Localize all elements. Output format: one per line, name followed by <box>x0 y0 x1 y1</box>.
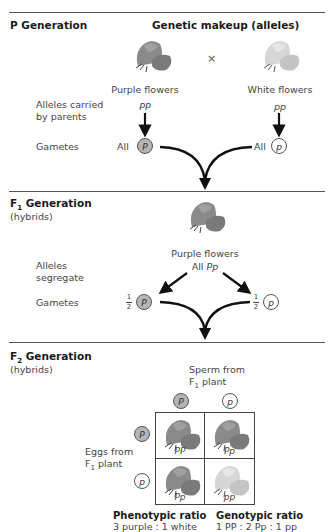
punnett-cell-Pp-bottom: Pp <box>156 459 205 505</box>
punnett-square: PP Pp Pp pp <box>155 412 255 505</box>
egg-allele-recessive: p <box>134 473 150 489</box>
cell-genotype: Pp <box>156 492 204 502</box>
f1-generation-heading: F1 Generation <box>10 197 92 212</box>
f1-phenotype: Purple flowers <box>165 248 245 260</box>
fraction-right: 12 <box>253 294 259 311</box>
punnett-cell-pp: pp <box>205 459 254 505</box>
f1-gamete-dominant: P <box>136 294 152 310</box>
sperm-label: Sperm from F1 plant <box>189 364 245 392</box>
punnett-cell-PP: PP <box>156 413 205 459</box>
eggs-label: Eggs from F1 plant <box>85 446 133 474</box>
cell-genotype: Pp <box>205 446 254 456</box>
divider-f1 <box>9 191 325 192</box>
f2-generation-heading: F2 Generation <box>10 350 92 365</box>
eggs-label-line1: Eggs from <box>85 446 133 458</box>
f2-subheading: (hybrids) <box>10 364 53 376</box>
phenotypic-ratio-title: Phenotypic ratio <box>113 510 206 521</box>
fraction-left: 12 <box>126 294 132 311</box>
cell-genotype: PP <box>156 446 204 456</box>
sperm-allele-recessive: p <box>222 393 238 409</box>
gametes-label-f1: Gametes <box>36 297 79 309</box>
f1-subheading: (hybrids) <box>10 211 53 223</box>
punnett-cell-Pp-top: Pp <box>205 413 254 459</box>
genotypic-ratio-title: Genotypic ratio <box>216 510 303 521</box>
alleles-segregate-label: Alleles segregate <box>36 260 84 284</box>
genotypic-ratio-value: 1 PP : 2 Pp : 1 pp <box>216 521 297 532</box>
sperm-label-line1: Sperm from <box>189 364 245 376</box>
phenotypic-ratio-value: 3 purple : 1 white <box>113 521 197 532</box>
sperm-allele-dominant: P <box>173 393 189 409</box>
sperm-label-line2: F1 plant <box>189 376 245 392</box>
divider-f2 <box>9 342 325 343</box>
f1-purple-flower-icon <box>188 199 230 239</box>
f1-genotype: All Pp <box>180 261 230 273</box>
egg-allele-dominant: P <box>134 426 150 442</box>
eggs-label-line2: F1 plant <box>85 458 133 474</box>
f1-gamete-recessive: p <box>263 294 279 310</box>
alleles-segregate-line2: segregate <box>36 272 84 284</box>
alleles-segregate-line1: Alleles <box>36 260 84 272</box>
cell-genotype: pp <box>205 492 254 502</box>
